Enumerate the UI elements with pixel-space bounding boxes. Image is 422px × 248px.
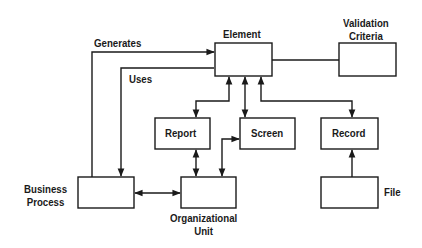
- generates-label: Generates: [94, 37, 141, 50]
- screen-orgunit-edge: [222, 139, 239, 176]
- organizational-unit-box: [181, 177, 236, 208]
- file-box: [321, 177, 378, 208]
- validation-criteria-label: Validation Criteria: [343, 17, 389, 43]
- element-box: [215, 43, 272, 76]
- uses-label: Uses: [129, 73, 152, 86]
- screen-label: Screen: [251, 127, 283, 140]
- element-record-edge: [261, 77, 352, 117]
- element-report-edge: [196, 77, 229, 117]
- record-label: Record: [332, 127, 365, 140]
- business-process-label: Business Process: [24, 183, 67, 209]
- validation-criteria-box: [339, 43, 396, 76]
- organizational-unit-label: Organizational Unit: [170, 212, 237, 238]
- business-process-box: [78, 177, 134, 208]
- element-label: Element: [223, 28, 261, 41]
- file-label: File: [384, 186, 401, 199]
- report-label: Report: [165, 127, 196, 140]
